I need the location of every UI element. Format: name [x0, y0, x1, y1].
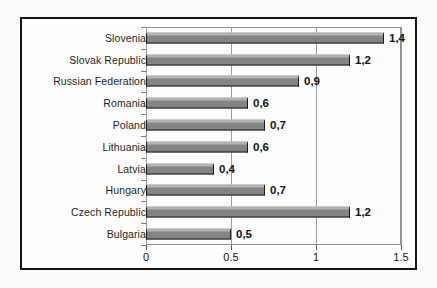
category-axis-tick — [141, 27, 146, 28]
category-label-slovenia: Slovenia — [105, 32, 146, 44]
bar-row: Slovenia1,4 — [0, 27, 437, 49]
category-axis-tick — [141, 158, 146, 159]
bar-slovenia — [146, 32, 384, 43]
x-tick-label-1: 1 — [313, 251, 319, 263]
bar-highlight — [147, 121, 264, 123]
x-tick-label-1.5: 1.5 — [393, 251, 408, 263]
category-axis-tick — [141, 180, 146, 181]
category-axis-tick — [141, 201, 146, 202]
value-label-russian-federation: 0,9 — [304, 75, 320, 87]
bar-row: Slovak Republic1,2 — [0, 49, 437, 71]
x-tick-mark-0.5 — [231, 245, 232, 250]
category-label-czech-republic: Czech Republic — [71, 206, 146, 218]
category-axis-tick — [141, 114, 146, 115]
value-label-hungary: 0,7 — [270, 184, 286, 196]
bar-slovak-republic — [146, 54, 350, 65]
category-axis-tick — [141, 71, 146, 72]
category-label-lithuania: Lithuania — [102, 141, 146, 153]
category-label-romania: Romania — [103, 97, 146, 109]
bar-czech-republic — [146, 207, 350, 218]
bar-hungary — [146, 185, 265, 196]
category-label-bulgaria: Bulgaria — [107, 228, 146, 240]
bar-row: Latvia0,4 — [0, 158, 437, 180]
x-tick-label-0.5: 0.5 — [223, 251, 238, 263]
bar-poland — [146, 120, 265, 131]
bar-highlight — [147, 77, 298, 79]
bar-highlight — [147, 208, 349, 210]
bar-latvia — [146, 163, 214, 174]
value-label-bulgaria: 0,5 — [236, 228, 252, 240]
bar-row: Bulgaria0,5 — [0, 223, 437, 245]
bar-row: Romania0,6 — [0, 92, 437, 114]
category-axis-tick — [141, 92, 146, 93]
value-label-romania: 0,6 — [253, 97, 269, 109]
bar-highlight — [147, 33, 383, 35]
value-label-slovenia: 1,4 — [389, 32, 405, 44]
bar-highlight — [147, 164, 213, 166]
bar-rows-group: Slovenia1,4Slovak Republic1,2Russian Fed… — [0, 0, 437, 288]
category-label-latvia: Latvia — [117, 163, 146, 175]
bar-row: Poland0,7 — [0, 114, 437, 136]
bar-romania — [146, 98, 248, 109]
bar-row: Czech Republic1,2 — [0, 201, 437, 223]
category-axis-tick — [141, 49, 146, 50]
category-label-poland: Poland — [113, 119, 146, 131]
bar-highlight — [147, 186, 264, 188]
bar-highlight — [147, 230, 230, 232]
x-tick-mark-0 — [146, 245, 147, 250]
category-label-slovak-republic: Slovak Republic — [69, 54, 146, 66]
x-tick-label-0: 0 — [143, 251, 149, 263]
bar-row: Russian Federation0,9 — [0, 71, 437, 93]
bar-row: Hungary0,7 — [0, 180, 437, 202]
bar-row: Lithuania0,6 — [0, 136, 437, 158]
category-label-russian-federation: Russian Federation — [53, 75, 146, 87]
value-label-poland: 0,7 — [270, 119, 286, 131]
value-label-latvia: 0,4 — [219, 163, 235, 175]
category-axis-tick — [141, 136, 146, 137]
value-label-slovak-republic: 1,2 — [355, 54, 371, 66]
value-label-lithuania: 0,6 — [253, 141, 269, 153]
bar-highlight — [147, 142, 247, 144]
x-tick-mark-1 — [316, 245, 317, 250]
category-label-hungary: Hungary — [106, 184, 146, 196]
category-axis-tick — [141, 223, 146, 224]
bar-russian-federation — [146, 76, 299, 87]
x-tick-mark-1.5 — [401, 245, 402, 250]
bar-bulgaria — [146, 229, 231, 240]
bar-highlight — [147, 99, 247, 101]
bar-lithuania — [146, 141, 248, 152]
bar-highlight — [147, 55, 349, 57]
value-label-czech-republic: 1,2 — [355, 206, 371, 218]
